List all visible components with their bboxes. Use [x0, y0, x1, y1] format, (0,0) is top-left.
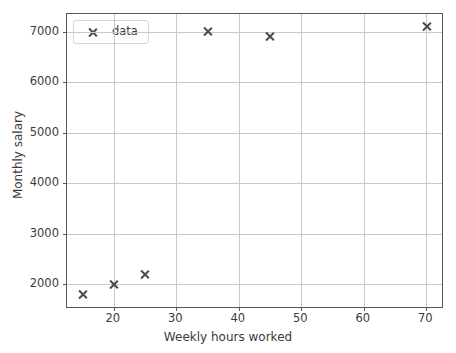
- y-axis-tick-label: 4000: [30, 175, 59, 189]
- y-axis-tick-label: 6000: [30, 74, 59, 88]
- x-axis-tick-label: 30: [168, 311, 183, 325]
- data-point-marker: [265, 31, 276, 42]
- scatter-plot-figure: data Weekly hours worked Monthly salary …: [0, 0, 456, 353]
- x-axis-tick-label: 20: [106, 311, 121, 325]
- plot-area: data: [66, 13, 443, 308]
- gridline-horizontal: [67, 32, 442, 33]
- gridline-horizontal: [67, 82, 442, 83]
- y-axis-tick-label: 5000: [30, 125, 59, 139]
- y-axis-tick: [63, 234, 67, 235]
- gridline-vertical: [301, 14, 302, 307]
- y-axis-tick-label: 7000: [30, 24, 59, 38]
- x-axis-tick-label: 60: [356, 311, 371, 325]
- y-axis-tick: [63, 284, 67, 285]
- gridline-horizontal: [67, 284, 442, 285]
- y-axis-tick-label: 2000: [30, 276, 59, 290]
- gridline-vertical: [114, 14, 115, 307]
- x-axis-tick-label: 50: [293, 311, 308, 325]
- y-axis-tick: [63, 133, 67, 134]
- gridline-vertical: [364, 14, 365, 307]
- x-axis-tick-label: 40: [231, 311, 246, 325]
- y-axis-tick-label: 3000: [30, 226, 59, 240]
- x-axis-tick-label: 70: [418, 311, 433, 325]
- gridline-horizontal: [67, 133, 442, 134]
- y-axis-label: Monthly salary: [11, 75, 25, 235]
- x-axis-label: Weekly hours worked: [0, 330, 456, 344]
- y-axis-tick: [63, 82, 67, 83]
- data-point-marker: [140, 269, 151, 280]
- gridline-vertical: [176, 14, 177, 307]
- y-axis-tick: [63, 183, 67, 184]
- gridline-vertical: [426, 14, 427, 307]
- gridline-horizontal: [67, 183, 442, 184]
- gridline-horizontal: [67, 234, 442, 235]
- data-point-marker: [77, 289, 88, 300]
- gridline-vertical: [239, 14, 240, 307]
- y-axis-tick: [63, 32, 67, 33]
